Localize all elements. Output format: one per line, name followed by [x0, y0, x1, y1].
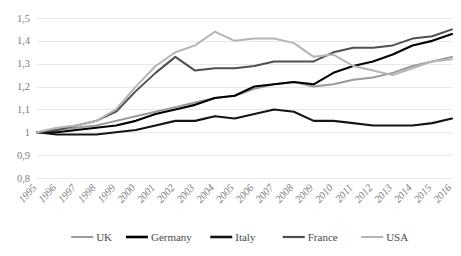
x-tick-label: 1997 [56, 181, 79, 205]
x-tick-label: 2010 [313, 181, 336, 205]
y-tick-label: 1,3 [17, 58, 30, 69]
x-tick-label: 2002 [155, 181, 178, 205]
x-tick-label: 2004 [194, 181, 217, 205]
x-tick-label: 2007 [253, 181, 276, 205]
x-tick-label: 2012 [352, 181, 375, 205]
x-tick-label: 2014 [392, 181, 415, 205]
series-line-italy [37, 109, 452, 134]
x-tick-label: 2006 [234, 181, 257, 205]
x-tick-label: 2011 [333, 182, 355, 204]
chart-plot-wrapper: 1,51,41,31,21,110,90,8 19951996199719981… [0, 0, 461, 256]
x-tick-label: 2013 [372, 182, 394, 205]
x-tick-label: 1995 [16, 182, 38, 205]
x-tick-label: 2008 [273, 181, 296, 205]
chart-canvas: 1,51,41,31,21,110,90,8 19951996199719981… [0, 0, 461, 256]
data-series-group [37, 29, 452, 134]
legend-label-italy[interactable]: Italy [235, 231, 256, 243]
y-axis-tick-labels: 1,51,41,31,21,110,90,8 [17, 13, 31, 184]
y-tick-label: 1,5 [17, 13, 30, 24]
y-tick-label: 0,8 [17, 173, 30, 184]
line-chart-figure: 1,51,41,31,21,110,90,8 19951996199719981… [0, 0, 461, 256]
series-line-germany [37, 34, 452, 132]
y-tick-label: 0,9 [17, 150, 30, 161]
x-tick-label: 2016 [431, 181, 454, 205]
x-tick-label: 1999 [95, 181, 118, 205]
x-tick-label: 1998 [76, 181, 99, 205]
y-tick-label: 1,4 [17, 35, 31, 46]
x-tick-label: 2001 [135, 182, 157, 205]
legend-label-usa[interactable]: USA [386, 231, 408, 243]
y-tick-label: 1,2 [17, 81, 30, 92]
x-tick-label: 2015 [411, 182, 433, 205]
x-axis-tick-labels: 1995199619971998199920002001200220032004… [16, 181, 454, 205]
x-tick-label: 2000 [115, 181, 138, 205]
y-tick-label: 1 [25, 127, 30, 138]
legend-label-france[interactable]: France [308, 231, 338, 243]
chart-legend: UKGermanyItalyFranceUSA [71, 231, 408, 243]
series-line-uk [37, 57, 452, 132]
y-tick-label: 1,1 [17, 104, 30, 115]
x-tick-label: 2005 [214, 182, 236, 205]
x-tick-label: 1996 [36, 181, 59, 205]
gridlines-group [37, 19, 452, 179]
x-tick-label: 2003 [174, 182, 196, 205]
legend-label-uk[interactable]: UK [96, 231, 112, 243]
x-tick-label: 2009 [293, 181, 316, 205]
legend-label-germany[interactable]: Germany [151, 231, 192, 243]
